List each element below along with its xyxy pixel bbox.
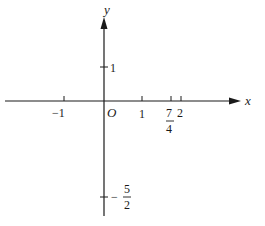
x-axis-arrow-icon xyxy=(229,98,241,105)
x-tick-label-7-4-numerator: 7 xyxy=(166,106,172,120)
x-tick-label-7-4-denominator: 4 xyxy=(166,122,172,136)
x-axis-label: x xyxy=(244,93,251,108)
coordinate-plane: y x O −1 1 7 4 2 1 − 5 2 xyxy=(0,0,265,226)
y-axis-label: y xyxy=(102,2,110,17)
y-tick-label-1: 1 xyxy=(110,61,116,75)
x-tick-label-1: 1 xyxy=(139,107,145,121)
y-tick-label-neg5-2-denominator: 2 xyxy=(124,198,130,212)
y-tick-label-neg5-2-sign: − xyxy=(111,190,118,204)
x-tick-label-2: 2 xyxy=(177,106,183,120)
x-tick-label-neg1: −1 xyxy=(52,106,65,120)
origin-label: O xyxy=(107,105,117,120)
axes-svg: y x O −1 1 7 4 2 1 − 5 2 xyxy=(0,0,265,226)
y-axis-arrow-icon xyxy=(101,17,108,29)
y-tick-label-neg5-2-numerator: 5 xyxy=(124,182,130,196)
